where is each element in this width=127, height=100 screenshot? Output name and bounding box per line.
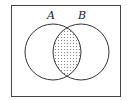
venn-diagram: A B xyxy=(0,0,127,100)
set-b-label: B xyxy=(77,9,86,22)
set-a-label: A xyxy=(46,9,55,22)
